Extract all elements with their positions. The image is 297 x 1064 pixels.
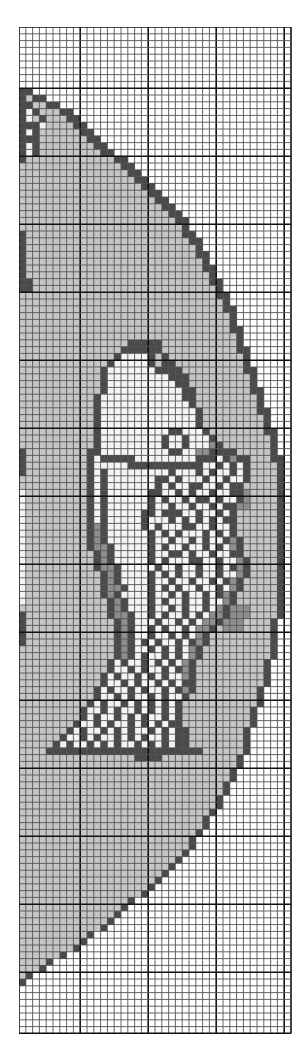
stitch-cell (189, 476, 196, 483)
stitch-cell (39, 863, 46, 870)
stitch-cell (101, 646, 108, 653)
stitch-cell (114, 204, 121, 211)
stitch-cell (101, 836, 108, 843)
stitch-cell (101, 143, 108, 150)
stitch-cell (73, 163, 80, 170)
stitch-cell (155, 231, 162, 238)
stitch-cell (135, 727, 142, 734)
stitch-cell (250, 700, 257, 707)
stitch-cell (209, 687, 216, 694)
stitch-cell (94, 510, 101, 517)
stitch-cell (216, 727, 223, 734)
stitch-cell (264, 619, 271, 626)
stitch-cell (196, 544, 203, 551)
stitch-cell (169, 394, 176, 401)
stitch-cell (19, 530, 26, 537)
stitch-cell (26, 795, 33, 802)
stitch-cell (46, 313, 53, 320)
stitch-cell (128, 537, 135, 544)
stitch-cell (67, 272, 74, 279)
stitch-cell (162, 211, 169, 218)
stitch-cell (135, 177, 142, 184)
stitch-cell (46, 251, 53, 258)
stitch-cell (250, 625, 257, 632)
stitch-cell (128, 265, 135, 272)
stitch-cell (169, 313, 176, 320)
stitch-cell (101, 258, 108, 265)
stitch-cell (209, 428, 216, 435)
stitch-cell (53, 428, 60, 435)
stitch-cell (209, 340, 216, 347)
stitch-cell (216, 340, 223, 347)
stitch-cell (230, 727, 237, 734)
stitch-cell (155, 578, 162, 585)
stitch-cell (223, 347, 230, 354)
stitch-cell (26, 503, 33, 510)
stitch-cell (94, 891, 101, 898)
stitch-cell (94, 496, 101, 503)
stitch-cell (121, 857, 128, 864)
stitch-cell (196, 489, 203, 496)
stitch-cell (250, 578, 257, 585)
stitch-cell (19, 299, 26, 306)
stitch-cell (53, 598, 60, 605)
stitch-cell (121, 843, 128, 850)
stitch-cell (189, 666, 196, 673)
stitch-cell (250, 435, 257, 442)
stitch-cell (46, 687, 53, 694)
stitch-cell (230, 415, 237, 422)
stitch-cell (257, 387, 264, 394)
stitch-cell (80, 687, 87, 694)
stitch-cell (155, 272, 162, 279)
stitch-cell (87, 843, 94, 850)
stitch-cell (101, 306, 108, 313)
stitch-cell (114, 435, 121, 442)
stitch-cell (189, 775, 196, 782)
stitch-cell (230, 741, 237, 748)
stitch-cell (80, 299, 87, 306)
stitch-cell (277, 598, 284, 605)
stitch-cell (87, 931, 94, 938)
stitch-cell (216, 666, 223, 673)
stitch-cell (209, 415, 216, 422)
stitch-cell (135, 217, 142, 224)
stitch-cell (33, 809, 40, 816)
stitch-cell (243, 734, 250, 741)
stitch-cell (141, 333, 148, 340)
stitch-cell (128, 870, 135, 877)
stitch-cell (67, 727, 74, 734)
stitch-cell (107, 687, 114, 694)
stitch-cell (87, 394, 94, 401)
stitch-cell (148, 517, 155, 524)
stitch-cell (46, 945, 53, 952)
stitch-cell (46, 612, 53, 619)
stitch-cell (107, 245, 114, 252)
stitch-cell (101, 245, 108, 252)
stitch-cell (33, 925, 40, 932)
stitch-cell (121, 353, 128, 360)
stitch-cell (128, 347, 135, 354)
stitch-cell (73, 945, 80, 952)
stitch-cell (114, 469, 121, 476)
stitch-cell (67, 775, 74, 782)
stitch-cell (162, 707, 169, 714)
stitch-cell (60, 952, 67, 959)
stitch-cell (121, 795, 128, 802)
stitch-cell (39, 829, 46, 836)
stitch-cell (128, 224, 135, 231)
stitch-cell (148, 435, 155, 442)
stitch-cell (80, 911, 87, 918)
stitch-cell (175, 428, 182, 435)
stitch-cell (216, 360, 223, 367)
stitch-cell (237, 326, 244, 333)
stitch-cell (223, 530, 230, 537)
stitch-cell (114, 442, 121, 449)
stitch-cell (128, 455, 135, 462)
stitch-cell (87, 428, 94, 435)
stitch-cell (216, 326, 223, 333)
stitch-cell (128, 435, 135, 442)
stitch-cell (19, 190, 26, 197)
stitch-cell (80, 476, 87, 483)
stitch-cell (121, 197, 128, 204)
stitch-cell (121, 163, 128, 170)
